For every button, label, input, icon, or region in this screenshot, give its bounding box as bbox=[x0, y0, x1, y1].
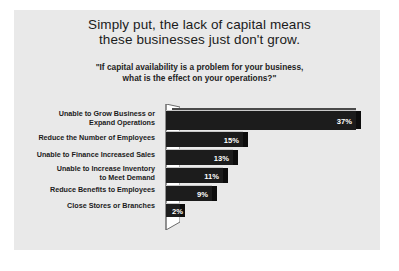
bar-side-face bbox=[212, 186, 217, 201]
bar-side-face bbox=[223, 168, 228, 183]
bar[interactable]: 37% bbox=[166, 110, 356, 130]
chart-subtitle: "If capital availability is a problem fo… bbox=[0, 62, 399, 84]
bar-side-face bbox=[233, 150, 238, 165]
bar[interactable]: 13% bbox=[166, 149, 233, 165]
bar[interactable]: 11% bbox=[166, 167, 223, 183]
bar-value-label: 9% bbox=[197, 189, 208, 198]
bar[interactable]: 15% bbox=[166, 131, 243, 147]
bar[interactable]: 9% bbox=[166, 185, 212, 201]
bar-value-label: 2% bbox=[172, 206, 183, 215]
title-line-1: Simply put, the lack of capital means bbox=[0, 17, 399, 32]
subtitle-line-2: what is the effect on your operations?" bbox=[0, 73, 399, 84]
bar[interactable]: 2% bbox=[166, 203, 180, 217]
subtitle-line-1: "If capital availability is a problem fo… bbox=[0, 62, 399, 73]
bar-chart: Unable to Grow Business or Expand Operat… bbox=[0, 104, 399, 234]
bar-side-face bbox=[243, 132, 248, 147]
title-line-2: these businesses just don't grow. bbox=[0, 32, 399, 47]
bar-series: 37% 15% 13% 11% 9% bbox=[0, 104, 399, 234]
bar-value-label: 11% bbox=[204, 171, 219, 180]
chart-page: Simply put, the lack of capital means th… bbox=[0, 0, 399, 271]
bar-value-label: 15% bbox=[224, 135, 239, 144]
bar-value-label: 13% bbox=[214, 153, 229, 162]
bar-side-face bbox=[356, 111, 361, 129]
page-title: Simply put, the lack of capital means th… bbox=[0, 17, 399, 47]
bar-value-label: 37% bbox=[337, 116, 352, 125]
